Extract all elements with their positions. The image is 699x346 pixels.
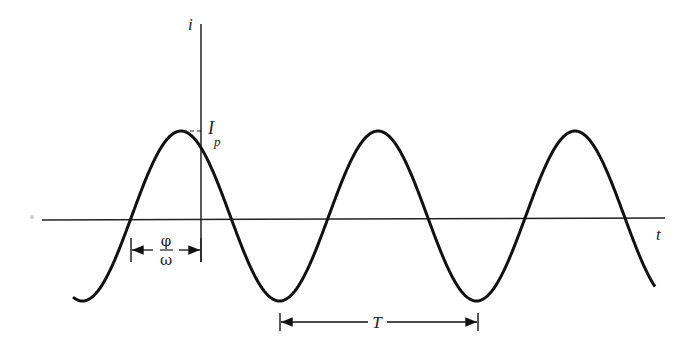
- time-axis: [42, 218, 665, 220]
- scan-dot: [30, 215, 34, 219]
- period-label: T: [372, 313, 383, 332]
- vertical-axis-label: i: [188, 15, 193, 34]
- diagram-canvas: i t I p φ ω T: [0, 0, 699, 346]
- phase-numerator: φ: [161, 232, 172, 250]
- phase-denominator: ω: [160, 251, 172, 269]
- sinusoid-curve: [73, 131, 655, 301]
- sinusoid-diagram: i t I p φ ω T: [0, 0, 699, 346]
- horizontal-axis-label: t: [656, 225, 662, 244]
- peak-label-subscript: p: [213, 134, 221, 149]
